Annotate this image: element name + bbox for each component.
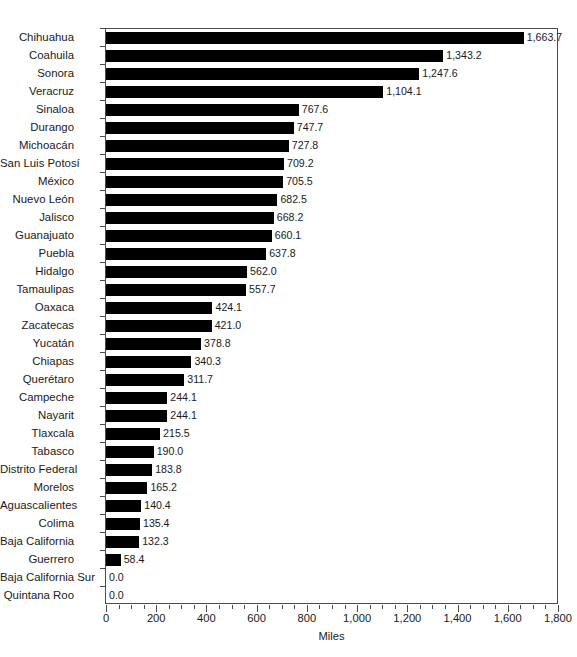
x-axis-minor-tick: [495, 605, 496, 609]
bar-chart: Chihuahua1,663.7Coahuila1,343.2Sonora1,2…: [0, 0, 577, 657]
x-axis-major-tick: [357, 605, 358, 612]
x-axis-minor-tick: [483, 605, 484, 609]
x-axis-major-tick: [106, 605, 107, 612]
x-axis-minor-tick: [345, 605, 346, 609]
x-axis-minor-tick: [131, 605, 132, 609]
x-axis-minor-tick: [194, 605, 195, 609]
x-axis-minor-tick: [244, 605, 245, 609]
x-axis-title: Miles: [105, 630, 558, 642]
x-axis-tick-label: 1,400: [444, 612, 472, 624]
x-axis-minor-tick: [219, 605, 220, 609]
x-axis: 02004006008001,0001,2001,4001,6001,800: [0, 0, 577, 657]
x-axis-minor-tick: [395, 605, 396, 609]
x-axis-minor-tick: [332, 605, 333, 609]
x-axis-major-tick: [206, 605, 207, 612]
x-axis-tick-label: 1,600: [494, 612, 522, 624]
x-axis-minor-tick: [232, 605, 233, 609]
x-axis-tick-label: 1,200: [393, 612, 421, 624]
x-axis-tick-label: 1,800: [544, 612, 572, 624]
x-axis-major-tick: [257, 605, 258, 612]
x-axis-minor-tick: [445, 605, 446, 609]
x-axis-minor-tick: [370, 605, 371, 609]
x-axis-major-tick: [558, 605, 559, 612]
x-axis-tick-label: 400: [197, 612, 216, 624]
x-axis-major-tick: [458, 605, 459, 612]
x-axis-minor-tick: [169, 605, 170, 609]
x-axis-major-tick: [407, 605, 408, 612]
x-axis-minor-tick: [181, 605, 182, 609]
x-axis-minor-tick: [533, 605, 534, 609]
x-axis-minor-tick: [432, 605, 433, 609]
x-axis-tick-label: 600: [247, 612, 266, 624]
x-axis-minor-tick: [420, 605, 421, 609]
x-axis-tick-label: 200: [147, 612, 166, 624]
x-axis-minor-tick: [119, 605, 120, 609]
x-axis-minor-tick: [319, 605, 320, 609]
x-axis-minor-tick: [294, 605, 295, 609]
x-axis-minor-tick: [545, 605, 546, 609]
x-axis-minor-tick: [144, 605, 145, 609]
x-axis-tick-label: 0: [103, 612, 109, 624]
x-axis-minor-tick: [269, 605, 270, 609]
x-axis-major-tick: [156, 605, 157, 612]
x-axis-tick-label: 800: [298, 612, 317, 624]
x-axis-minor-tick: [520, 605, 521, 609]
x-axis-minor-tick: [470, 605, 471, 609]
x-axis-tick-label: 1,000: [343, 612, 371, 624]
x-axis-major-tick: [307, 605, 308, 612]
x-axis-major-tick: [508, 605, 509, 612]
x-axis-minor-tick: [282, 605, 283, 609]
x-axis-minor-tick: [382, 605, 383, 609]
